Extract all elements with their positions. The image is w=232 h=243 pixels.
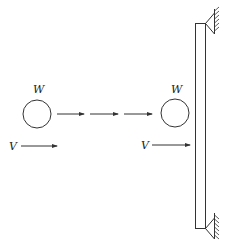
impact-diagram: W V W V: [0, 0, 232, 243]
ball-impact: W V: [141, 83, 190, 152]
ball-start: W V: [9, 83, 57, 153]
ground-hatch-top-icon: [215, 7, 220, 31]
velocity-label-impact: V: [141, 139, 150, 152]
ground-hatch-bottom-icon: [215, 215, 220, 239]
top-pin-support: [206, 7, 220, 34]
weight-label-impact: W: [171, 83, 184, 96]
bottom-pin-support: [206, 213, 220, 239]
velocity-label-start: V: [9, 140, 18, 153]
beam: [196, 24, 206, 229]
weight-label-start: W: [33, 83, 46, 96]
